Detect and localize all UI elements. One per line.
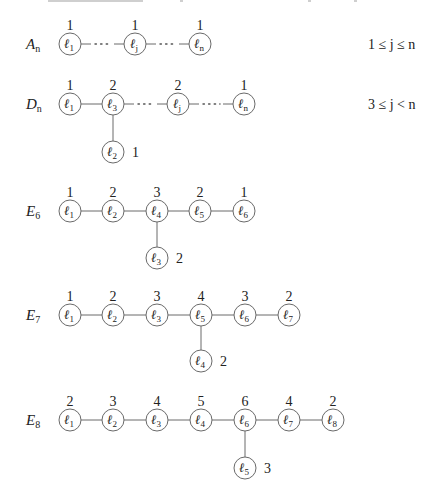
dynkin-node: ℓ11 (59, 289, 81, 326)
dynkin-node: ℓ82 (322, 394, 344, 431)
dynkin-node: ℓ52 (189, 185, 211, 222)
index-constraint: 1 ≤ j ≤ n (368, 37, 415, 52)
root-coefficient: 1 (67, 289, 74, 304)
root-coefficient: 1 (132, 18, 139, 33)
dynkin-node: ℓ63 (234, 289, 256, 326)
diagram-type-label: Dn (25, 96, 42, 114)
index-constraint: 3 ≤ j < n (368, 97, 415, 112)
root-coefficient: 3 (154, 185, 161, 200)
root-coefficient: 1 (241, 185, 248, 200)
root-coefficient: 2 (67, 394, 74, 409)
dynkin-node: ℓ74 (278, 394, 300, 431)
dynkin-row-a: Anℓ11ℓj1ℓn11 ≤ j ≤ n (25, 18, 415, 55)
dynkin-node: ℓ43 (146, 185, 168, 222)
dynkin-node: ℓ21 (102, 141, 139, 163)
diagram-type-label: E6 (25, 203, 40, 221)
dynkin-node: ℓ66 (234, 394, 256, 431)
root-coefficient: 2 (330, 394, 337, 409)
root-coefficient: 2 (110, 185, 117, 200)
root-coefficient: 5 (198, 394, 205, 409)
root-coefficient: 4 (286, 394, 293, 409)
root-coefficient: 3 (154, 289, 161, 304)
root-coefficient: 2 (220, 354, 227, 369)
dynkin-row-d: Dnℓ11ℓ32ℓj2ℓn1ℓ213 ≤ j < n (25, 78, 415, 163)
root-coefficient: 1 (197, 18, 204, 33)
root-coefficient: 2 (286, 289, 293, 304)
root-coefficient: 6 (242, 394, 249, 409)
dynkin-node: ℓ32 (102, 78, 124, 115)
dynkin-node: ℓ34 (146, 394, 168, 431)
dynkin-node: ℓj2 (167, 78, 189, 115)
dynkin-node: ℓ22 (102, 185, 124, 222)
dynkin-node: ℓn1 (233, 78, 255, 115)
diagram-type-label: E8 (25, 412, 40, 430)
root-coefficient: 1 (67, 18, 74, 33)
root-coefficient: 4 (154, 394, 161, 409)
dynkin-row-e7: E7ℓ11ℓ22ℓ33ℓ54ℓ63ℓ72ℓ42 (25, 289, 300, 372)
root-coefficient: 3 (242, 289, 249, 304)
root-coefficient: 1 (241, 78, 248, 93)
dynkin-node: ℓ54 (190, 289, 212, 326)
dynkin-node: ℓ11 (59, 78, 81, 115)
dynkin-node: ℓ61 (233, 185, 255, 222)
dynkin-diagram-figure: Anℓ11ℓj1ℓn11 ≤ j ≤ nDnℓ11ℓ32ℓj2ℓn1ℓ213 ≤… (0, 0, 438, 486)
root-coefficient: 3 (110, 394, 117, 409)
root-coefficient: 1 (67, 185, 74, 200)
dynkin-node: ℓ12 (59, 394, 81, 431)
dynkin-node: ℓ32 (146, 247, 183, 269)
dynkin-node: ℓ11 (59, 185, 81, 222)
dynkin-node: ℓ23 (102, 394, 124, 431)
dynkin-node: ℓ45 (190, 394, 212, 431)
dynkin-node: ℓ33 (146, 289, 168, 326)
dynkin-node: ℓ72 (278, 289, 300, 326)
root-coefficient: 1 (67, 78, 74, 93)
dynkin-node: ℓ11 (59, 18, 81, 55)
dynkin-node: ℓ42 (190, 350, 227, 372)
root-coefficient: 1 (132, 145, 139, 160)
root-coefficient: 3 (264, 461, 271, 476)
root-coefficient: 2 (110, 289, 117, 304)
diagram-type-label: E7 (25, 307, 40, 325)
dynkin-row-e8: E8ℓ12ℓ23ℓ34ℓ45ℓ66ℓ74ℓ82ℓ53 (25, 394, 344, 479)
root-coefficient: 2 (176, 251, 183, 266)
root-coefficient: 4 (198, 289, 205, 304)
diagram-type-label: An (25, 36, 40, 54)
dynkin-node: ℓ53 (234, 457, 271, 479)
dynkin-node: ℓn1 (189, 18, 211, 55)
root-coefficient: 2 (175, 78, 182, 93)
dynkin-node: ℓj1 (124, 18, 146, 55)
root-coefficient: 2 (197, 185, 204, 200)
dynkin-node: ℓ22 (102, 289, 124, 326)
dynkin-row-e6: E6ℓ11ℓ22ℓ43ℓ52ℓ61ℓ32 (25, 185, 255, 269)
root-coefficient: 2 (110, 78, 117, 93)
